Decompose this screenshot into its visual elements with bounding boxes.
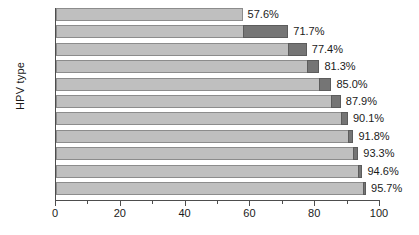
x-axis-minor-tick [152, 200, 153, 204]
bar-segment-base [56, 165, 358, 178]
x-axis-minor-tick [87, 200, 88, 204]
bar-row: + 4577.4% [56, 43, 379, 56]
bar-value-label: 94.6% [368, 164, 399, 178]
bar-row: + 1871.7% [56, 25, 379, 38]
bar-segment-increment [358, 165, 362, 178]
bar-segment-base [56, 112, 341, 125]
bar-value-label: 57.6% [248, 7, 279, 21]
x-axis-tick-label: 0 [35, 207, 75, 219]
bar-value-label: 90.1% [353, 111, 384, 125]
bar-row: 1657.6% [56, 8, 379, 21]
x-axis-tick [55, 200, 56, 206]
stacked-bar [56, 147, 358, 160]
x-axis-tick [120, 200, 121, 206]
stacked-bar [56, 182, 366, 195]
bar-segment-base [56, 25, 243, 38]
bar-row: + 3593.3% [56, 147, 379, 160]
bar-segment-increment [243, 25, 289, 38]
bar-segment-increment [319, 78, 331, 91]
x-axis-tick-label: 20 [100, 207, 140, 219]
stacked-bar [56, 130, 353, 143]
stacked-bar [56, 165, 362, 178]
x-axis-minor-tick [217, 200, 218, 204]
bar-segment-increment [331, 95, 340, 108]
x-axis-tick-label: 60 [229, 207, 269, 219]
bar-segment-increment [341, 112, 348, 125]
bar-value-label: 93.3% [363, 146, 394, 160]
hpv-type-cumulative-bar-chart: HPV type 1657.6%+ 1871.7%+ 4577.4%+ 3181… [0, 0, 419, 235]
bar-segment-increment [307, 60, 320, 73]
bar-segment-increment [353, 147, 358, 160]
plot-area: 1657.6%+ 1871.7%+ 4577.4%+ 3181.3%+ X85.… [55, 8, 379, 200]
x-axis-tick [379, 200, 380, 206]
bar-row: + 5891.8% [56, 130, 379, 143]
x-axis-minor-tick [282, 200, 283, 204]
bar-segment-increment [288, 43, 306, 56]
bar-row: + 5994.6% [56, 165, 379, 178]
stacked-bar [56, 60, 319, 73]
bar-segment-increment [363, 182, 367, 195]
bar-segment-base [56, 43, 288, 56]
bar-segment-base [56, 95, 331, 108]
bar-segment-increment [348, 130, 354, 143]
bar-segment-base [56, 130, 348, 143]
x-axis-tick [249, 200, 250, 206]
bar-row: + 3387.9% [56, 95, 379, 108]
x-axis-tick [185, 200, 186, 206]
bar-segment-base [56, 8, 243, 21]
stacked-bar [56, 95, 341, 108]
stacked-bar [56, 8, 243, 21]
bar-segment-base [56, 147, 353, 160]
bar-value-label: 85.0% [336, 77, 367, 91]
stacked-bar [56, 78, 331, 91]
bar-row: + 5695.7% [56, 182, 379, 195]
bar-value-label: 95.7% [371, 181, 402, 195]
y-axis-title: HPV type [14, 36, 26, 136]
stacked-bar [56, 112, 348, 125]
bar-segment-base [56, 182, 363, 195]
x-axis-minor-tick [347, 200, 348, 204]
bar-segment-base [56, 78, 319, 91]
bar-row: + 5290.1% [56, 112, 379, 125]
bar-row: + 3181.3% [56, 60, 379, 73]
bar-segment-base [56, 60, 307, 73]
x-axis-tick [314, 200, 315, 206]
bar-value-label: 87.9% [346, 94, 377, 108]
bar-value-label: 91.8% [358, 129, 389, 143]
x-axis-tick-label: 40 [165, 207, 205, 219]
bar-value-label: 77.4% [312, 42, 343, 56]
x-axis-tick-label: 100 [359, 207, 399, 219]
bar-row: + X85.0% [56, 78, 379, 91]
stacked-bar [56, 43, 307, 56]
stacked-bar [56, 25, 288, 38]
bar-value-label: 71.7% [293, 24, 324, 38]
x-axis-tick-label: 80 [294, 207, 334, 219]
bar-value-label: 81.3% [324, 59, 355, 73]
